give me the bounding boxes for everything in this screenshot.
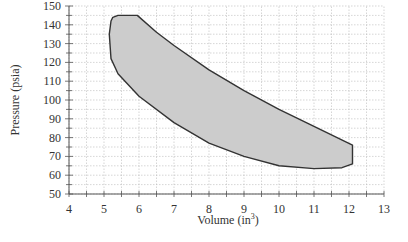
y-tick-label: 150 — [43, 0, 61, 13]
y-tick-label: 120 — [43, 55, 61, 69]
x-tick-label: 10 — [273, 202, 285, 216]
y-tick-label: 80 — [49, 131, 61, 145]
x-tick-label: 12 — [343, 202, 355, 216]
x-tick-label: 7 — [171, 202, 177, 216]
x-tick-label: 13 — [378, 202, 390, 216]
x-tick-label: 6 — [136, 202, 142, 216]
y-tick-label: 70 — [49, 149, 61, 163]
y-tick-label: 60 — [49, 168, 61, 182]
y-tick-label: 90 — [49, 112, 61, 126]
pv-chart: 5060708090100110120130140150 45678910111… — [0, 0, 408, 242]
y-tick-label: 140 — [43, 18, 61, 32]
y-tick-label: 100 — [43, 93, 61, 107]
y-tick-labels: 5060708090100110120130140150 — [43, 0, 61, 201]
x-tick-label: 4 — [66, 202, 72, 216]
y-tick-label: 130 — [43, 37, 61, 51]
x-axis-label: Volume (in3) — [197, 212, 258, 227]
y-tick-label: 110 — [43, 74, 61, 88]
cycle-polygon — [109, 15, 352, 168]
x-tick-label: 5 — [101, 202, 107, 216]
y-axis-label: Pressure (psia) — [8, 65, 22, 136]
x-tick-label: 11 — [308, 202, 320, 216]
cycle-area — [109, 15, 352, 168]
y-tick-label: 50 — [49, 187, 61, 201]
